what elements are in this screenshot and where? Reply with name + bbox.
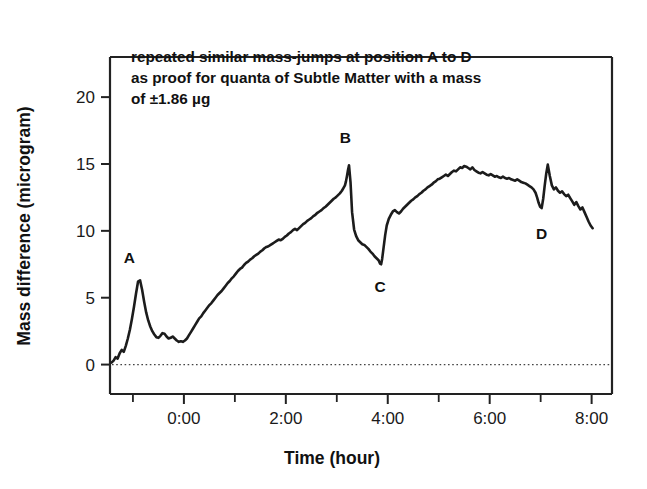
x-tick-label-6: 6:00 (473, 409, 506, 428)
peak-label-A: A (124, 249, 135, 266)
x-tick-label-4: 4:00 (371, 409, 404, 428)
annotation-line-3: of ±1.86 µg (131, 90, 210, 107)
peak-labels: ABCD (124, 129, 548, 296)
x-axis-ticks (133, 394, 592, 404)
annotation-line-1: repeated similar mass-jumps at position … (131, 48, 472, 65)
y-axis-ticks (101, 97, 110, 364)
y-axis-tick-labels: 05101520 (76, 88, 95, 374)
y-tick-label-15: 15 (76, 155, 95, 174)
y-tick-label-10: 10 (76, 222, 95, 241)
x-tick-label-8: 8:00 (575, 409, 608, 428)
x-axis-title: Time (hour) (284, 448, 380, 468)
peak-label-D: D (536, 225, 547, 242)
chart-figure: 05101520 0:002:004:006:008:00 ABCD repea… (0, 0, 647, 489)
annotation-line-2: as proof for quanta of Subtle Matter wit… (131, 69, 481, 86)
mass-difference-line-chart: 05101520 0:002:004:006:008:00 ABCD repea… (0, 0, 647, 489)
x-tick-label-0: 0:00 (167, 409, 200, 428)
x-axis-tick-labels: 0:002:004:006:008:00 (167, 409, 608, 428)
mass-difference-curve (112, 165, 593, 363)
y-tick-label-20: 20 (76, 88, 95, 107)
y-axis-title: Mass difference (microgram) (14, 106, 34, 345)
x-tick-label-2: 2:00 (269, 409, 302, 428)
y-tick-label-5: 5 (86, 289, 95, 308)
peak-label-C: C (375, 278, 386, 295)
peak-label-B: B (340, 129, 351, 146)
y-tick-label-0: 0 (86, 356, 95, 375)
